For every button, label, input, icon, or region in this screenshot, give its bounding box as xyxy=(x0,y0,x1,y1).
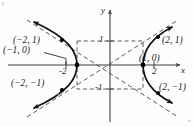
point-label-upper-right: (2, 1) xyxy=(162,36,183,46)
point-neg2-neg1 xyxy=(60,88,64,92)
hyperbola-figure: (−2, 1) (−1, 0) (−2, −1) (2, 1) (1, 0) (… xyxy=(0,0,193,127)
point-label-right-vertex: (1, 0) xyxy=(139,54,160,64)
point-label-lower-left: (−2, −1) xyxy=(11,79,44,89)
scan-speckle xyxy=(57,93,59,95)
point-label-left-vertex: (−1, 0) xyxy=(3,46,30,56)
scan-speckle xyxy=(188,120,191,122)
point-neg1-0 xyxy=(75,63,80,68)
scan-speckle xyxy=(2,2,4,5)
x-axis-label: x xyxy=(181,66,185,75)
y-tick-label-1: 1 xyxy=(99,35,104,44)
x-tick-label-2: 2 xyxy=(152,67,157,76)
y-tick-label-neg1: -1 xyxy=(95,83,103,92)
y-axis-label: y xyxy=(101,6,105,15)
point-neg2-1 xyxy=(60,38,64,42)
point-label-lower-right: (2, −1) xyxy=(159,83,186,93)
point-2-1 xyxy=(156,35,160,39)
x-tick-label-neg2: -2 xyxy=(59,67,67,76)
figure-canvas xyxy=(0,0,193,127)
leader-line-left-vertex xyxy=(44,53,66,65)
